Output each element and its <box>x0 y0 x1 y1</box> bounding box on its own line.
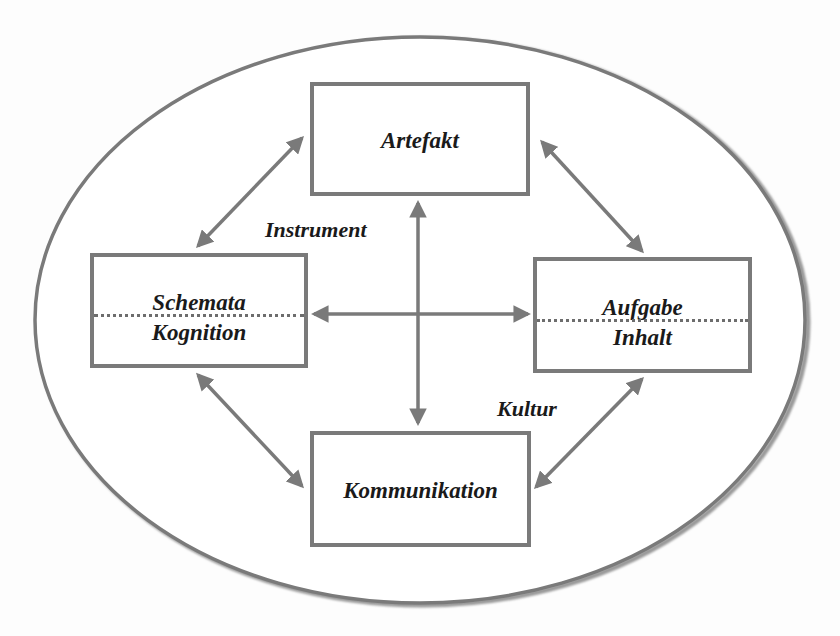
node-schemata-kognition: Schemata Kognition <box>90 253 308 368</box>
diagram-canvas: Artefakt Schemata Kognition Aufgabe Inha… <box>0 0 840 636</box>
node-aufgabe-divider <box>537 319 748 322</box>
node-aufgabe-inhalt: Aufgabe Inhalt <box>533 257 752 373</box>
edge-label-instrument: Instrument <box>265 219 367 241</box>
node-schemata-divider <box>94 314 304 317</box>
node-schemata-label: Schemata <box>94 291 304 314</box>
node-aufgabe-label: Aufgabe <box>537 296 748 319</box>
node-artefakt: Artefakt <box>310 82 530 196</box>
node-kognition-label: Kognition <box>94 321 304 344</box>
node-artefakt-label: Artefakt <box>314 129 526 152</box>
node-inhalt-label: Inhalt <box>537 326 748 349</box>
node-kommunikation: Kommunikation <box>310 431 531 547</box>
node-kommunikation-label: Kommunikation <box>314 479 527 502</box>
edge-label-kultur: Kultur <box>497 398 557 420</box>
